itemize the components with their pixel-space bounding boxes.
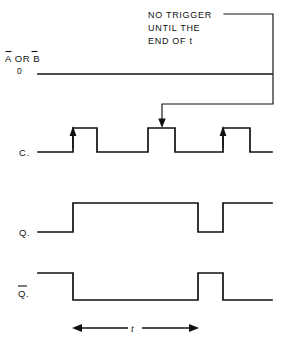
trigger-arrow-3	[220, 126, 227, 148]
signal-label-q: Q.	[19, 227, 30, 238]
waveform-q	[38, 203, 272, 232]
signal-a-or-b: A OR B 0	[5, 52, 272, 77]
signal-c: C.	[19, 126, 272, 158]
no-trigger-annotation: NO TRIGGER UNTIL THE END OF t	[148, 10, 212, 46]
signal-label-q-bar: Q.	[18, 288, 29, 299]
signal-q-bar: Q.	[18, 273, 272, 300]
timing-diagram-figure: NO TRIGGER UNTIL THE END OF t A OR B 0 C…	[0, 0, 288, 350]
annotation-line-2: UNTIL THE	[148, 23, 200, 33]
annotation-arrowhead	[158, 119, 165, 129]
dim-arrowhead-right	[189, 324, 199, 332]
timing-diagram-canvas: NO TRIGGER UNTIL THE END OF t A OR B 0 C…	[0, 0, 288, 350]
signal-label-c: C.	[19, 147, 30, 158]
annotation-line-3: END OF t	[148, 36, 193, 46]
dim-arrowhead-left	[72, 324, 82, 332]
dim-label-t: t	[131, 323, 134, 334]
trigger-arrow-1	[70, 126, 77, 148]
signal-q: Q.	[19, 203, 272, 238]
signal-level-zero: 0	[17, 66, 22, 76]
duration-dimension-t: t	[72, 323, 199, 334]
signal-label-a-or-b: A OR B	[5, 53, 40, 64]
annotation-line-1: NO TRIGGER	[148, 10, 212, 20]
waveform-q-bar	[38, 273, 272, 300]
